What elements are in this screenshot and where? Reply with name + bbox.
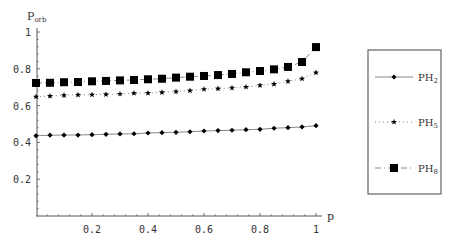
star-marker — [285, 78, 291, 84]
chart: 0.20.40.60.810.20.40.60.81 Porb p PH2 PH… — [0, 0, 450, 243]
x-tick-label: 0.8 — [251, 224, 269, 235]
square-marker — [32, 79, 40, 87]
square-marker — [298, 58, 306, 66]
star-marker — [89, 92, 95, 98]
star-marker — [201, 86, 207, 92]
diamond-marker — [145, 130, 150, 135]
star-marker — [131, 90, 137, 96]
square-marker — [228, 70, 236, 78]
legend: PH2 PH5 PH8 — [368, 50, 441, 194]
x-axis-title: p — [327, 210, 334, 223]
y-axis-title: Porb — [27, 10, 47, 24]
star-marker — [173, 88, 179, 94]
diamond-marker — [173, 130, 178, 135]
axes: 0.20.40.60.810.20.40.60.81 — [13, 27, 322, 235]
diamond-marker — [215, 128, 220, 133]
series-ph8 — [32, 43, 320, 87]
y-tick-label: 0.8 — [13, 64, 31, 75]
diamond-marker — [299, 124, 304, 129]
star-marker — [215, 85, 221, 91]
plot-area — [32, 43, 320, 138]
y-tick-label: 0.4 — [13, 137, 31, 148]
diamond-marker — [131, 131, 136, 136]
diamond-marker — [229, 128, 234, 133]
diamond-marker — [47, 133, 52, 138]
y-tick-label: 1 — [25, 27, 31, 38]
square-marker — [144, 75, 152, 83]
square-marker — [130, 76, 138, 84]
y-tick-label: 0.6 — [13, 101, 31, 112]
star-marker — [75, 92, 81, 98]
diamond-marker — [271, 126, 276, 131]
x-tick-label: 1 — [313, 224, 319, 235]
star-marker — [117, 91, 123, 97]
y-tick-label: 0.2 — [13, 174, 31, 185]
star-marker — [257, 82, 263, 88]
star-marker — [271, 81, 277, 87]
x-tick-label: 0.2 — [83, 224, 101, 235]
diamond-marker — [243, 127, 248, 132]
square-marker — [312, 43, 320, 51]
square-marker — [172, 74, 180, 82]
diamond-marker — [187, 129, 192, 134]
star-marker — [187, 88, 193, 94]
star-marker — [299, 76, 305, 82]
square-marker — [270, 65, 278, 73]
diamond-marker — [75, 132, 80, 137]
square-marker — [214, 71, 222, 79]
diamond-marker — [117, 131, 122, 136]
square-marker — [116, 76, 124, 84]
series-ph2 — [33, 123, 318, 138]
star-marker — [47, 93, 53, 99]
diamond-marker — [313, 123, 318, 128]
square-marker — [256, 67, 264, 75]
diamond-marker — [285, 125, 290, 130]
x-tick-label: 0.6 — [195, 224, 213, 235]
diamond-marker — [89, 132, 94, 137]
star-marker — [313, 69, 319, 75]
square-marker — [46, 79, 54, 87]
star-marker — [61, 92, 67, 98]
square-marker — [242, 68, 250, 76]
square-marker — [102, 77, 110, 85]
diamond-marker — [61, 132, 66, 137]
square-marker — [74, 78, 82, 86]
star-marker — [145, 90, 151, 96]
diamond-marker — [103, 132, 108, 137]
square-marker — [158, 75, 166, 83]
square-marker — [284, 63, 292, 71]
diamond-marker — [201, 128, 206, 133]
star-marker — [229, 85, 235, 91]
star-marker — [103, 91, 109, 97]
x-tick-label: 0.4 — [139, 224, 157, 235]
square-marker — [200, 72, 208, 80]
diamond-marker — [33, 133, 38, 138]
square-marker-icon — [390, 164, 398, 172]
star-marker — [159, 89, 165, 95]
star-marker — [243, 84, 249, 90]
square-marker — [60, 78, 68, 86]
diamond-marker — [257, 127, 262, 132]
diamond-marker — [159, 130, 164, 135]
square-marker — [88, 77, 96, 85]
square-marker — [186, 73, 194, 81]
